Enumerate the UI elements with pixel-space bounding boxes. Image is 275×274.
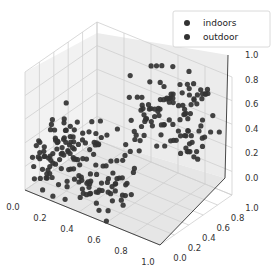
data-point [65, 179, 70, 184]
data-point [76, 142, 81, 147]
data-point [94, 172, 99, 177]
data-point [52, 127, 57, 132]
data-point [138, 138, 143, 143]
data-point [95, 190, 100, 195]
data-point [180, 103, 185, 108]
x-tick-label: 0.2 [33, 213, 47, 223]
data-point [34, 143, 39, 148]
data-point [75, 120, 80, 125]
data-point [78, 195, 83, 200]
data-point [55, 139, 60, 144]
data-point [203, 92, 208, 97]
x-tick-label: 0.4 [60, 224, 74, 234]
data-point [45, 176, 50, 181]
data-point [114, 158, 119, 163]
data-point [154, 63, 159, 68]
data-point [108, 159, 113, 164]
data-point [191, 154, 196, 159]
data-point [182, 133, 187, 138]
data-point [167, 100, 172, 105]
data-point [161, 97, 166, 102]
data-point [87, 147, 92, 152]
data-point [56, 182, 61, 187]
data-point [139, 124, 144, 129]
data-point [157, 106, 162, 111]
data-point [79, 178, 84, 183]
data-point [189, 133, 194, 138]
data-point [110, 184, 115, 189]
data-point [142, 133, 147, 138]
data-point [158, 132, 163, 137]
data-point [72, 177, 77, 182]
data-point [88, 171, 93, 176]
data-point [123, 193, 128, 198]
data-point [104, 133, 109, 138]
data-point [202, 135, 207, 140]
data-point [187, 86, 192, 91]
z-tick-label: 0.0 [245, 173, 259, 183]
y-tick-label: 0.4 [202, 233, 216, 243]
x-tick-label: 0.0 [6, 202, 20, 212]
data-point [186, 69, 191, 74]
data-point [217, 129, 222, 134]
data-point [198, 87, 203, 92]
data-point [154, 144, 159, 149]
data-point [115, 126, 120, 131]
data-point [99, 135, 104, 140]
data-point [192, 98, 197, 103]
data-point [57, 157, 62, 162]
data-point [105, 180, 110, 185]
data-point [178, 151, 183, 156]
data-point [170, 64, 175, 69]
data-point [177, 117, 182, 122]
data-point [31, 164, 36, 169]
z-tick-label: 0.2 [245, 148, 259, 158]
data-point [186, 129, 191, 134]
y-tick-label: 0.8 [231, 213, 245, 223]
data-point [80, 131, 85, 136]
data-point [148, 106, 153, 111]
data-point [132, 129, 137, 134]
data-point [91, 152, 96, 157]
data-point [187, 149, 192, 154]
data-point [94, 201, 99, 206]
data-point [70, 145, 75, 150]
legend: indoors outdoor [173, 11, 270, 47]
data-point [75, 157, 80, 162]
data-point [149, 63, 154, 68]
data-point [161, 84, 166, 89]
data-point [68, 151, 73, 156]
data-point [42, 144, 47, 149]
legend-label-outdoor: outdoor [203, 32, 238, 42]
z-tick-label: 1.0 [245, 50, 259, 60]
data-point [63, 197, 68, 202]
data-point [63, 128, 68, 133]
data-point [127, 95, 132, 100]
data-point [138, 108, 143, 113]
data-point [162, 143, 167, 148]
data-point [176, 128, 181, 133]
data-point [161, 122, 166, 127]
data-point [87, 191, 92, 196]
legend-marker-outdoor [184, 34, 190, 40]
data-point [120, 158, 125, 163]
y-tick-label: 0.0 [173, 253, 187, 263]
data-point [152, 114, 157, 119]
data-point [200, 117, 205, 122]
legend-label-indoors: indoors [203, 18, 237, 28]
data-point [188, 111, 193, 116]
data-point [76, 173, 81, 178]
data-point [128, 73, 133, 78]
data-point [122, 153, 127, 158]
data-point [80, 137, 85, 142]
data-point [59, 166, 64, 171]
data-point [86, 179, 91, 184]
x-tick-label: 1.0 [141, 257, 155, 267]
y-tick-label: 0.2 [188, 243, 202, 253]
data-point [54, 146, 59, 151]
data-point [50, 161, 55, 166]
data-point [135, 95, 140, 100]
data-point [199, 96, 204, 101]
data-point [200, 144, 205, 149]
data-point [171, 91, 176, 96]
